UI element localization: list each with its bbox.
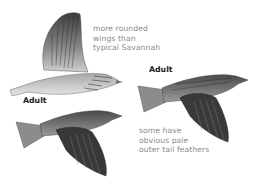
- bird-illustration-lower-left: [14, 104, 126, 180]
- bird-illustration-upper-left: [4, 10, 124, 96]
- label-adult-right: Adult: [149, 65, 173, 74]
- annotation-rounded-wings: more rounded wings than typical Savannah: [93, 24, 160, 53]
- label-adult-left: Adult: [23, 96, 47, 105]
- annotation-pale-tail: some have obvious pale outer tail feathe…: [139, 126, 209, 155]
